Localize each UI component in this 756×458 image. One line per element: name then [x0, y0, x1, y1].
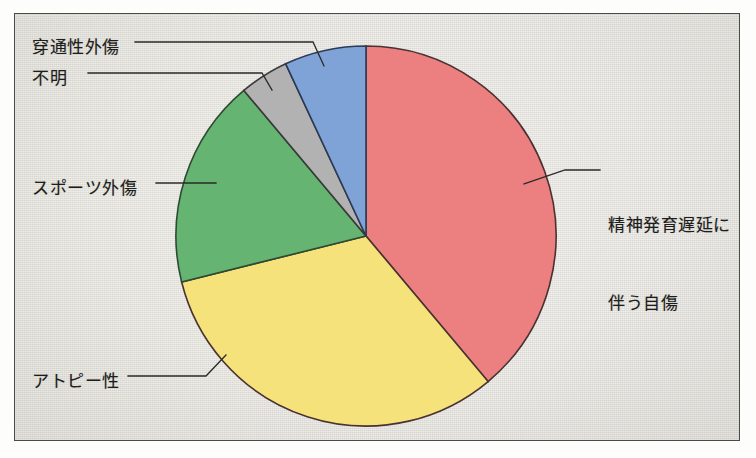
pie-label-unknown: 不明 — [32, 65, 67, 91]
leader-line-atopic — [128, 355, 226, 376]
pie-label-self-injury-line2: 伴う自傷 — [608, 290, 731, 316]
pie-label-atopic: アトピー性 — [32, 368, 120, 394]
pie-label-self-injury: 精神発育遅延に 伴う自傷 — [608, 160, 731, 368]
pie-label-penetrating-trauma: 穿通性外傷 — [32, 34, 120, 60]
leader-line-unknown — [88, 73, 272, 90]
pie-label-self-injury-line1: 精神発育遅延に — [608, 212, 731, 238]
scanned-page: 穿通性外傷 不明 スポーツ外傷 アトピー性 精神発育遅延に 伴う自傷 — [0, 0, 756, 458]
pie-slices — [176, 46, 556, 426]
pie-label-sports-injury: スポーツ外傷 — [32, 175, 137, 201]
